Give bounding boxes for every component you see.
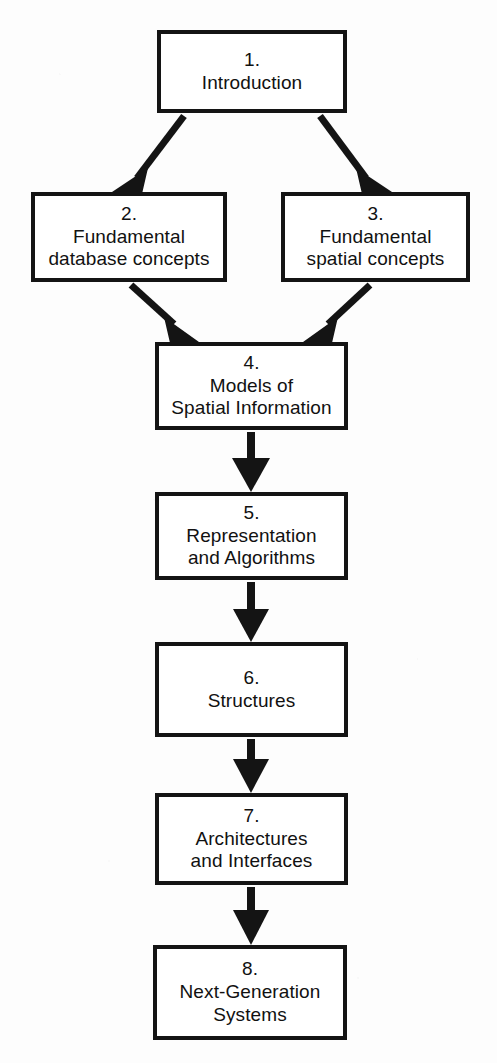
node-ch6-number: 6. (243, 667, 259, 690)
node-ch4-line-2: Spatial Information (171, 397, 331, 420)
arrow-ch4-to-ch5 (232, 432, 270, 492)
node-ch1[interactable]: 1. Introduction (157, 30, 347, 113)
node-ch8-number: 8. (242, 958, 258, 981)
node-ch6-line-1: Structures (208, 690, 296, 713)
node-ch8-line-1: Next-Generation (180, 981, 321, 1004)
arrow-ch6-to-ch7 (233, 739, 269, 793)
node-ch5-line-2: and Algorithms (188, 547, 315, 570)
node-ch4[interactable]: 4. Models of Spatial Information (155, 342, 348, 430)
node-ch3-number: 3. (367, 203, 383, 226)
arrow-ch7-to-ch8 (233, 887, 269, 945)
node-ch2[interactable]: 2. Fundamental database concepts (31, 192, 227, 282)
node-ch7-number: 7. (243, 805, 259, 828)
node-ch6[interactable]: 6. Structures (155, 642, 348, 737)
node-ch7-line-2: and Interfaces (191, 850, 313, 873)
node-ch8[interactable]: 8. Next-Generation Systems (153, 945, 347, 1040)
node-ch5[interactable]: 5. Representation and Algorithms (155, 492, 348, 580)
node-ch8-line-2: Systems (213, 1004, 287, 1027)
arrow-ch5-to-ch6 (233, 582, 269, 642)
arrow-ch1-to-ch2 (112, 116, 184, 196)
node-ch2-number: 2. (121, 203, 137, 226)
node-ch2-line-1: Fundamental (73, 226, 185, 249)
node-ch7[interactable]: 7. Architectures and Interfaces (155, 793, 348, 885)
arrow-ch2-to-ch4 (131, 285, 199, 345)
node-ch1-number: 1. (244, 49, 260, 72)
node-ch5-line-1: Representation (186, 525, 316, 548)
node-ch7-line-1: Architectures (195, 828, 307, 851)
node-ch2-line-2: database concepts (48, 248, 209, 271)
node-ch4-number: 4. (243, 352, 259, 375)
node-ch3-line-1: Fundamental (319, 226, 431, 249)
node-ch3-line-2: spatial concepts (307, 248, 445, 271)
flowchart-canvas: 1. Introduction 2. Fundamental database … (0, 0, 497, 1063)
node-ch1-line-1: Introduction (202, 72, 303, 95)
node-ch5-number: 5. (243, 502, 259, 525)
arrow-ch1-to-ch3 (320, 116, 392, 196)
arrow-ch3-to-ch4 (303, 285, 370, 345)
node-ch4-line-1: Models of (210, 375, 293, 398)
node-ch3[interactable]: 3. Fundamental spatial concepts (281, 192, 470, 282)
